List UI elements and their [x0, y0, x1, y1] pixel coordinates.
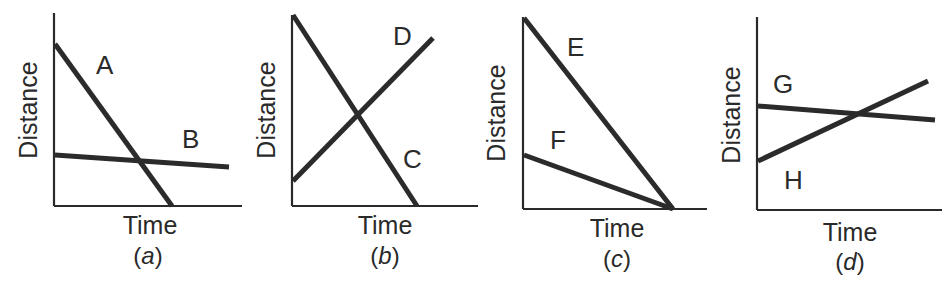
line-label-h: H: [784, 165, 803, 195]
line-a: [55, 44, 172, 206]
distance-time-graphs: A B Distance Time (a) D C Distance Time …: [0, 0, 949, 283]
line-label-g: G: [773, 69, 793, 99]
panel-caption: (d): [835, 248, 864, 275]
line-label-c: C: [403, 144, 422, 174]
y-axis-label: Distance: [717, 66, 745, 163]
y-axis-label: Distance: [14, 61, 42, 158]
panel-caption: (c): [603, 245, 631, 272]
caption-letter: a: [141, 242, 154, 269]
line-label-e: E: [567, 32, 584, 62]
y-axis-label: Distance: [252, 61, 280, 158]
line-label-a: A: [96, 50, 114, 80]
panel-d: G H Distance Time (d): [717, 17, 942, 275]
x-axis-label: Time: [358, 211, 413, 239]
line-label-f: F: [550, 125, 566, 155]
line-label-d: D: [393, 21, 412, 51]
line-label-b: B: [182, 124, 199, 154]
caption-letter: d: [843, 248, 857, 275]
panel-c: E F Distance Time (c): [482, 17, 707, 272]
panel-caption: (a): [133, 242, 162, 269]
x-axis-label: Time: [123, 211, 178, 239]
panel-a: A B Distance Time (a): [14, 13, 242, 269]
x-axis-label: Time: [823, 218, 878, 246]
caption-letter: c: [611, 245, 623, 272]
panel-caption: (b): [370, 242, 399, 269]
caption-letter: b: [378, 242, 391, 269]
x-axis-label: Time: [590, 214, 645, 242]
y-axis-label: Distance: [482, 64, 510, 161]
panel-b: D C Distance Time (b): [252, 15, 478, 269]
